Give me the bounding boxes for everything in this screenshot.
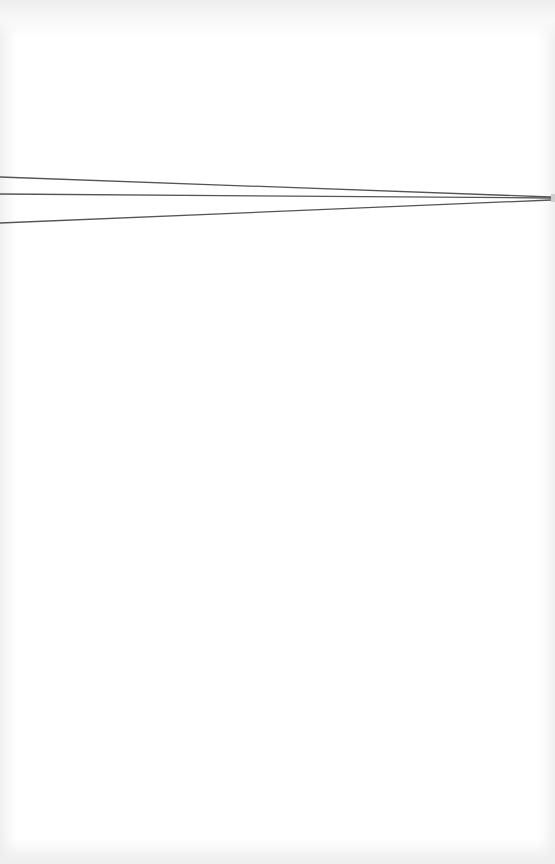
- blank-page: [0, 0, 555, 864]
- line-end-cap: [551, 194, 555, 202]
- converging-lines: [0, 0, 555, 864]
- bottom-line: [0, 200, 551, 223]
